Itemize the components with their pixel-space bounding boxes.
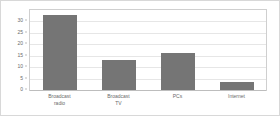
y-tick-mark — [25, 66, 27, 67]
y-tick-label: 25 — [17, 29, 23, 34]
x-tick-label: Internet — [207, 93, 267, 100]
y-tick-label: 5 — [20, 75, 23, 80]
y-tick-mark — [25, 31, 27, 32]
x-tick-label: Broadcast radio — [30, 93, 90, 106]
bar-slot — [89, 10, 148, 90]
y-tick-label: 30 — [17, 18, 23, 23]
bar-slot — [207, 10, 266, 90]
gridline — [30, 90, 266, 91]
x-tick-label: PCs — [148, 93, 208, 100]
y-tick-label: 15 — [17, 52, 23, 57]
y-tick-label: 20 — [17, 41, 23, 46]
bar — [161, 53, 195, 90]
y-tick-mark — [25, 20, 27, 21]
bar-slot — [30, 10, 89, 90]
y-tick-mark — [25, 89, 27, 90]
y-axis: 051015202530 — [1, 9, 27, 91]
bar — [220, 82, 254, 90]
bars-group — [30, 10, 266, 90]
x-axis: Broadcast radioBroadcast TVPCsInternet — [30, 93, 266, 115]
y-tick-label: 10 — [17, 64, 23, 69]
x-tick-label: Broadcast TV — [89, 93, 149, 106]
y-tick-mark — [25, 43, 27, 44]
bar — [43, 15, 77, 90]
bar-chart-figure: 051015202530 Broadcast radioBroadcast TV… — [0, 0, 280, 116]
bar-slot — [148, 10, 207, 90]
y-tick-mark — [25, 77, 27, 78]
y-tick-label: 0 — [20, 87, 23, 92]
bar — [102, 60, 136, 90]
y-tick-mark — [25, 54, 27, 55]
